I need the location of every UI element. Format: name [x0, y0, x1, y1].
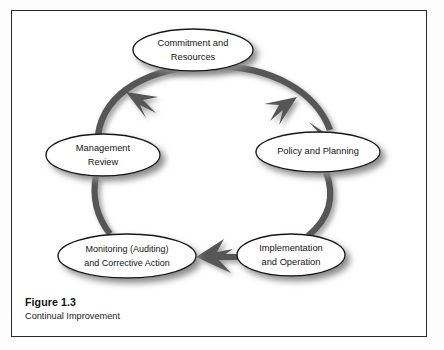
node-commitment-ellipse — [133, 29, 253, 71]
figure-caption-subtitle: Continual Improvement — [25, 310, 285, 323]
node-management-ellipse — [46, 134, 160, 176]
node-management-label-line2: Review — [88, 157, 119, 167]
connector-arc-right — [308, 172, 330, 236]
figure-caption: Figure 1.3 Continual Improvement — [25, 296, 285, 323]
connector-arc-left — [95, 175, 110, 234]
node-management-label-line1: Management — [76, 143, 131, 153]
node-implementation-and-operation: Implementation and Operation — [237, 234, 345, 276]
node-implementation-label-line1: Implementation — [259, 243, 323, 253]
node-monitoring-label-line1: Monitoring (Auditing) — [85, 244, 168, 254]
node-management-review: Management Review — [46, 134, 160, 176]
node-commitment-label-line2: Resources — [171, 52, 216, 62]
node-implementation-label-line2: and Operation — [262, 257, 321, 267]
node-monitoring-ellipse — [58, 234, 196, 278]
node-commitment-and-resources: Commitment and Resources — [133, 29, 253, 71]
node-monitoring-and-corrective-action: Monitoring (Auditing) and Corrective Act… — [58, 234, 196, 278]
node-monitoring-label-line2: and Corrective Action — [84, 258, 170, 268]
node-commitment-label-line1: Commitment and — [158, 38, 229, 48]
arrowhead-mid-right — [264, 97, 297, 125]
arrowhead-to-commitment — [126, 92, 158, 118]
node-policy-and-planning: Policy and Planning — [256, 132, 380, 172]
node-policy-label-line1: Policy and Planning — [277, 146, 359, 156]
figure-container: Commitment and Resources Policy and Plan… — [0, 0, 444, 350]
node-implementation-ellipse — [237, 234, 345, 276]
figure-caption-title: Figure 1.3 — [25, 296, 285, 309]
